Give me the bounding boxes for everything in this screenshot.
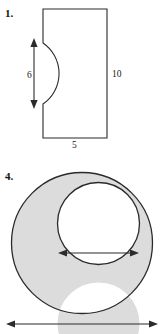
inner-circle-outline bbox=[58, 183, 140, 265]
figure-rectangle-with-semicircular-notch bbox=[0, 0, 165, 162]
problem-1: 1. 6 10 5 bbox=[0, 0, 165, 162]
problem-4: 4. 7 12 bbox=[0, 162, 165, 334]
dimension-label-width: 5 bbox=[72, 141, 77, 151]
dimension-label-notch-diameter: 6 bbox=[27, 71, 32, 81]
worksheet-page: 1. 6 10 5 4. bbox=[0, 0, 165, 334]
figure-annulus-ring bbox=[0, 162, 165, 334]
notched-rectangle-outline bbox=[43, 9, 107, 138]
dimension-label-height: 10 bbox=[112, 70, 122, 80]
